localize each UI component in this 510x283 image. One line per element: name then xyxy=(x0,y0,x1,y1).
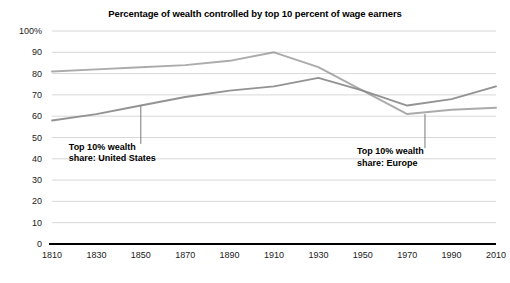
y-axis-tick: 100% xyxy=(0,26,42,36)
y-axis-tick: 90 xyxy=(0,47,42,57)
x-axis-tick: 1990 xyxy=(432,250,472,260)
y-axis-tick: 80 xyxy=(0,69,42,79)
x-axis-tick: 1870 xyxy=(165,250,205,260)
annotation-europe: Top 10% wealth share: Europe xyxy=(357,146,424,169)
x-axis-tick: 1830 xyxy=(76,250,116,260)
y-axis-tick: 10 xyxy=(0,218,42,228)
y-axis-tick: 40 xyxy=(0,154,42,164)
x-axis-tick: 1910 xyxy=(254,250,294,260)
x-axis-tick: 1850 xyxy=(121,250,161,260)
x-axis-tick: 1950 xyxy=(343,250,383,260)
chart-container: Percentage of wealth controlled by top 1… xyxy=(0,0,510,283)
x-axis-tick: 2010 xyxy=(476,250,510,260)
x-axis-tick: 1810 xyxy=(32,250,72,260)
x-axis-tick: 1890 xyxy=(210,250,250,260)
y-axis-tick: 20 xyxy=(0,196,42,206)
y-axis-tick: 60 xyxy=(0,111,42,121)
y-axis-tick: 70 xyxy=(0,90,42,100)
annotation-united-states: Top 10% wealth share: United States xyxy=(69,142,156,165)
y-axis-tick: 50 xyxy=(0,133,42,143)
x-axis-tick: 1930 xyxy=(298,250,338,260)
y-axis-tick: 30 xyxy=(0,175,42,185)
x-axis-tick: 1970 xyxy=(387,250,427,260)
y-axis-tick: 0 xyxy=(0,239,42,249)
